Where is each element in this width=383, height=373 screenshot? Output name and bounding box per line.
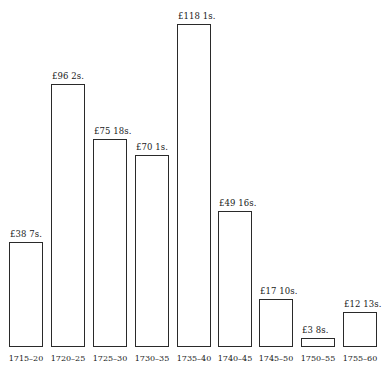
category-label: 1745–50 <box>256 354 296 363</box>
bar <box>135 155 169 347</box>
bar-value-label: £17 10s. <box>260 286 298 296</box>
bar <box>177 24 211 347</box>
bar-value-label: £118 1s. <box>178 11 216 21</box>
bar-chart: £38 7s.1715–20£96 2s.1720–25£75 18s.1725… <box>0 0 383 373</box>
bar <box>51 84 85 347</box>
bar-value-label: £12 13s. <box>344 299 382 309</box>
bar <box>343 312 377 347</box>
category-label: 1730–35 <box>132 354 172 363</box>
category-label: 1720–25 <box>48 354 88 363</box>
category-label: 1755–60 <box>340 354 380 363</box>
bar-value-label: £96 2s. <box>52 71 84 81</box>
bar <box>301 338 335 347</box>
bar <box>93 139 127 347</box>
bar-value-label: £38 7s. <box>10 229 42 239</box>
bar-value-label: £75 18s. <box>94 126 132 136</box>
category-label: 1740–45 <box>215 354 255 363</box>
category-label: 1750–55 <box>298 354 338 363</box>
bar-value-label: £70 1s. <box>136 142 168 152</box>
bar-value-label: £3 8s. <box>302 325 329 335</box>
category-label: 1715–20 <box>6 354 46 363</box>
category-label: 1735–40 <box>174 354 214 363</box>
bar <box>9 242 43 347</box>
bar <box>259 299 293 347</box>
category-label: 1725–30 <box>90 354 130 363</box>
bar-value-label: £49 16s. <box>219 198 257 208</box>
bar <box>218 211 252 347</box>
